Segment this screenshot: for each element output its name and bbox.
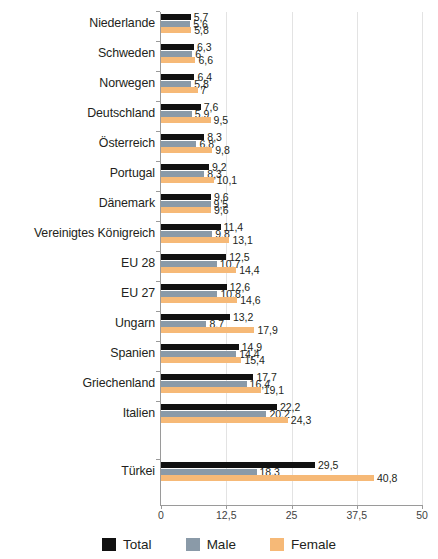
- bar-female: [161, 117, 211, 123]
- legend-item-female[interactable]: Female: [270, 537, 336, 552]
- bar-value-label: 9,6: [214, 205, 229, 215]
- y-tick-mark: [156, 221, 160, 222]
- y-tick-mark: [156, 341, 160, 342]
- category-label: Ungarn: [3, 316, 155, 330]
- bar-male: [161, 21, 190, 27]
- plot-area: 5,75,65,86,366,66,45,877,65,99,58,36,89,…: [161, 12, 422, 506]
- bar-male: [161, 231, 212, 237]
- bar-male: [161, 351, 236, 357]
- bar-female: [161, 177, 214, 183]
- bar-value-label: 14,4: [239, 265, 259, 275]
- bar-male: [161, 171, 204, 177]
- bar-value-label: 13,2: [233, 312, 253, 322]
- bar-total: [161, 224, 221, 230]
- bar-value-label: 14,6: [240, 295, 260, 305]
- y-tick-mark: [156, 131, 160, 132]
- y-tick-mark: [156, 459, 160, 460]
- bar-value-label: 13,1: [232, 235, 252, 245]
- legend-label: Male: [207, 537, 236, 552]
- bar-female: [161, 475, 374, 481]
- bar-value-label: 15,4: [244, 355, 264, 365]
- y-tick-mark: [156, 11, 160, 12]
- legend-swatch-icon: [102, 538, 116, 551]
- bar-female: [161, 417, 288, 423]
- bar-male: [161, 111, 192, 117]
- bar-female: [161, 327, 254, 333]
- bar-male: [161, 201, 211, 207]
- y-tick-mark: [156, 401, 160, 402]
- bar-female: [161, 297, 237, 303]
- legend-swatch-icon: [186, 538, 200, 551]
- bar-male: [161, 51, 192, 57]
- bar-male: [161, 411, 266, 417]
- bar-value-label: 17,9: [257, 325, 277, 335]
- bar-value-label: 29,5: [318, 460, 338, 470]
- bar-female: [161, 387, 261, 393]
- bar-value-label: 19,1: [264, 385, 284, 395]
- bar-female: [161, 147, 212, 153]
- category-label: Portugal: [3, 166, 155, 180]
- bar-value-label: 5,8: [194, 25, 209, 35]
- y-tick-mark: [156, 101, 160, 102]
- bar-male: [161, 469, 257, 475]
- bar-chart: NiederlandeSchwedenNorwegenDeutschlandÖs…: [0, 0, 438, 559]
- y-tick-mark: [156, 71, 160, 72]
- category-label: Schweden: [3, 46, 155, 60]
- x-tick-label: 50: [416, 509, 428, 521]
- bar-male: [161, 291, 217, 297]
- legend-item-male[interactable]: Male: [186, 537, 236, 552]
- category-label: Deutschland: [3, 106, 155, 120]
- bar-male: [161, 141, 196, 147]
- bar-female: [161, 57, 195, 63]
- category-label: Vereinigtes Königreich: [3, 226, 155, 240]
- bar-total: [161, 14, 191, 20]
- legend-label: Female: [291, 537, 336, 552]
- bar-value-label: 9,8: [215, 145, 230, 155]
- bar-total: [161, 164, 209, 170]
- x-tick-label: 12,5: [216, 509, 236, 521]
- legend-item-total[interactable]: Total: [102, 537, 152, 552]
- bar-female: [161, 27, 191, 33]
- y-tick-mark: [156, 281, 160, 282]
- category-label: Dänemark: [3, 196, 155, 210]
- legend-label: Total: [123, 537, 152, 552]
- bar-total: [161, 44, 194, 50]
- category-label: EU 28: [3, 256, 155, 270]
- bar-total: [161, 194, 211, 200]
- gridline: [422, 12, 423, 505]
- chart-legend: TotalMaleFemale: [0, 532, 438, 556]
- y-tick-mark: [156, 251, 160, 252]
- bar-total: [161, 404, 277, 410]
- x-tick-label: 25: [286, 509, 298, 521]
- y-tick-mark: [156, 161, 160, 162]
- bar-female: [161, 357, 241, 363]
- legend-swatch-icon: [270, 538, 284, 551]
- bar-value-label: 24,3: [291, 415, 311, 425]
- bar-male: [161, 261, 217, 267]
- bar-female: [161, 237, 229, 243]
- bar-total: [161, 74, 194, 80]
- category-label: Norwegen: [3, 76, 155, 90]
- bar-female: [161, 87, 198, 93]
- category-label: Griechenland: [3, 376, 155, 390]
- bar-female: [161, 207, 211, 213]
- y-tick-mark: [156, 191, 160, 192]
- category-label: Spanien: [3, 346, 155, 360]
- bar-male: [161, 381, 247, 387]
- bar-total: [161, 462, 315, 468]
- bar-value-label: 9,5: [214, 115, 229, 125]
- bar-total: [161, 254, 226, 260]
- bar-male: [161, 321, 206, 327]
- category-label: Niederlande: [3, 16, 155, 30]
- bar-total: [161, 284, 227, 290]
- category-label: Österreich: [3, 136, 155, 150]
- x-tick-label: 0: [158, 509, 164, 521]
- bar-total: [161, 344, 239, 350]
- bar-male: [161, 81, 191, 87]
- category-label: EU 27: [3, 286, 155, 300]
- y-tick-mark: [156, 41, 160, 42]
- bar-value-label: 6,6: [198, 55, 213, 65]
- y-tick-mark: [156, 311, 160, 312]
- y-tick-mark: [156, 371, 160, 372]
- bar-female: [161, 267, 236, 273]
